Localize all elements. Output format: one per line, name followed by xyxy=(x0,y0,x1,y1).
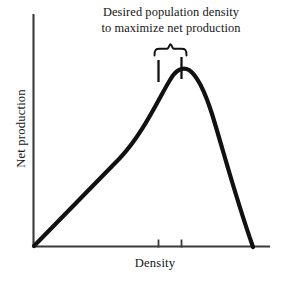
plot-canvas xyxy=(0,0,306,281)
chart-annotation-line-1: Desired population density xyxy=(86,5,256,21)
chart-annotation-line-2: to maximize net production xyxy=(86,21,256,37)
optimum-range-brace xyxy=(155,44,187,55)
chart-annotation: Desired population density to maximize n… xyxy=(86,5,256,36)
production-curve xyxy=(34,69,253,247)
figure-net-production-vs-density: Desired population density to maximize n… xyxy=(0,0,306,281)
x-axis-label: Density xyxy=(100,256,210,271)
y-axis-label: Net production xyxy=(14,69,29,189)
